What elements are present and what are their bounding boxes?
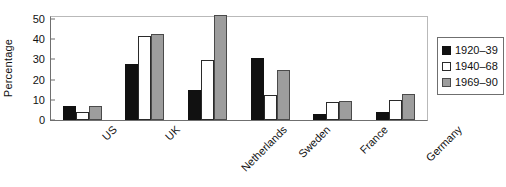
bar[interactable] [389,100,402,120]
bar[interactable] [339,101,352,120]
x-axis-label-us: US [100,124,119,143]
legend-item[interactable]: 1920–39 [442,42,498,58]
bar[interactable] [151,34,164,120]
bar[interactable] [89,106,102,120]
x-axis-labels: USUKNetherlandsSwedenFranceGermany [50,124,428,184]
legend-label: 1920–39 [455,44,498,56]
bar[interactable] [313,114,326,120]
bar-groups [51,17,427,120]
x-axis-label-uk: UK [163,124,182,143]
y-axis-tick-label: 20 [33,74,51,85]
y-axis-tick-label: 50 [33,14,51,25]
bar-group-france [313,17,352,120]
chart-legend: 1920–391940–681969–90 [437,37,504,95]
y-axis-title-text: Percentage [2,18,14,118]
x-axis-label-germany: Germany [424,124,464,164]
bar[interactable] [76,112,89,120]
y-axis-title: Percentage [2,0,16,18]
bar[interactable] [277,70,290,120]
legend-swatch [442,78,451,87]
bar-group-sweden [251,17,290,120]
bar[interactable] [63,106,76,120]
bar[interactable] [376,112,389,120]
legend-label: 1969–90 [455,76,498,88]
legend-swatch [442,62,451,71]
plot-area: 01020304050 [50,16,428,121]
bar[interactable] [214,15,227,120]
x-axis-label-sweden: Sweden [296,124,332,160]
y-axis-tick-label: 10 [33,94,51,105]
bar-group-netherlands [188,17,227,120]
legend-swatch [442,46,451,55]
bar-group-germany [376,17,415,120]
legend-item[interactable]: 1969–90 [442,74,498,90]
legend-item[interactable]: 1940–68 [442,58,498,74]
legend-label: 1940–68 [455,60,498,72]
x-axis-label-netherlands: Netherlands [239,124,289,174]
bar-group-uk [125,17,164,120]
bar-chart-figure: Percentage 01020304050 USUKNetherlandsSw… [0,0,506,187]
bar[interactable] [264,95,277,120]
bar[interactable] [138,36,151,120]
bar[interactable] [125,64,138,120]
bar-group-us [63,17,102,120]
y-axis-tick-label: 30 [33,54,51,65]
bar[interactable] [251,58,264,120]
bar[interactable] [188,90,201,120]
bar[interactable] [326,102,339,120]
y-axis-tick-label: 40 [33,34,51,45]
bar[interactable] [402,94,415,120]
x-axis-label-france: France [358,124,390,156]
bar[interactable] [201,60,214,120]
